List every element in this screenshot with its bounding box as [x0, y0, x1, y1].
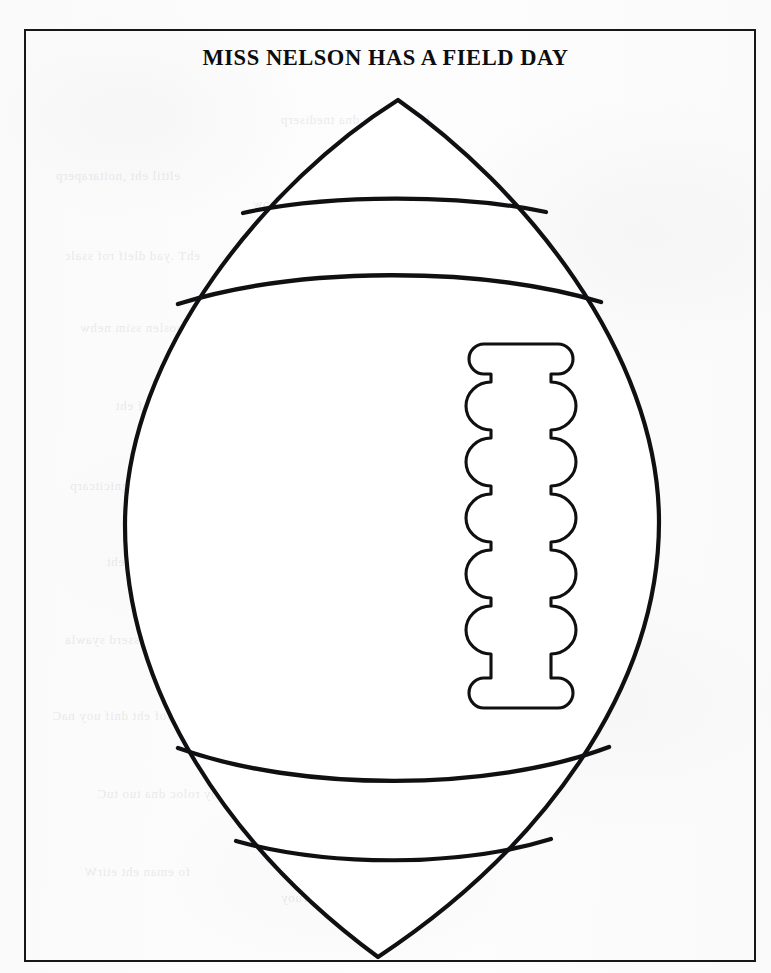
football-outline	[125, 100, 659, 957]
worksheet-page: lo ehs tahw dna tnediserp rehcaet eht sa…	[0, 0, 771, 973]
football-laces	[466, 344, 576, 708]
football-illustration	[0, 0, 771, 973]
laces-outline	[466, 344, 576, 708]
page-title: MISS NELSON HAS A FIELD DAY	[0, 45, 771, 71]
